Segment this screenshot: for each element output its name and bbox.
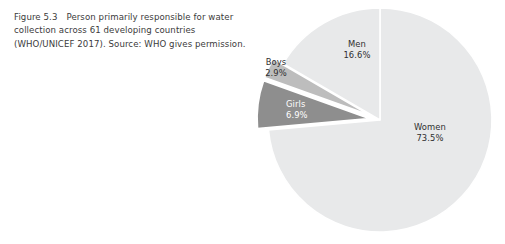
pie-label-men-name: Men <box>330 39 384 50</box>
pie-label-women-value: 73.5% <box>400 133 460 144</box>
pie-label-men: Men 16.6% <box>330 39 384 61</box>
pie-label-women-name: Women <box>400 122 460 133</box>
figure-caption: Figure 5.3Person primarily responsible f… <box>14 11 246 51</box>
pie-chart: Men 16.6% Women 73.5% Boys 2.9% Girls 6.… <box>252 0 505 244</box>
pie-chart-svg <box>252 0 505 244</box>
pie-label-boys-value: 2.9% <box>254 68 298 79</box>
pie-label-girls: Girls 6.9% <box>286 99 326 121</box>
figure-number: Figure 5.3 <box>14 12 57 22</box>
pie-label-girls-value: 6.9% <box>286 110 326 121</box>
pie-label-boys-name: Boys <box>254 57 298 68</box>
pie-label-men-value: 16.6% <box>330 50 384 61</box>
pie-label-women: Women 73.5% <box>400 122 460 144</box>
pie-label-girls-name: Girls <box>286 99 326 110</box>
figure-container: Figure 5.3Person primarily responsible f… <box>0 0 505 244</box>
pie-label-boys: Boys 2.9% <box>254 57 298 79</box>
